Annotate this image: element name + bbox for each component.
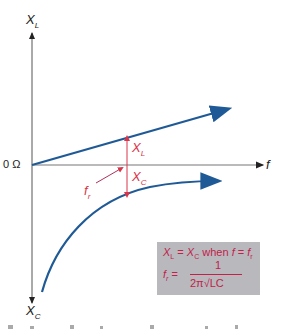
cutoff-text-strip: [8, 325, 238, 329]
origin-label: 0 Ω: [3, 158, 20, 170]
xl-arrow-label: XL: [132, 140, 145, 158]
x-axis-label: f: [266, 157, 270, 172]
formula-box: XL = XC when f = fr fr = 1 2π√LC: [157, 242, 260, 295]
resonant-frequency-lhs: fr =: [163, 268, 178, 282]
xc-arrow-label: XC: [132, 169, 146, 187]
formula-numerator: 1: [215, 259, 221, 271]
y-axis-bottom-label: XC: [26, 303, 40, 321]
fraction-bar: [190, 274, 242, 275]
fr-label: fr: [84, 183, 90, 201]
formula-denominator: 2π√LC: [190, 277, 224, 289]
y-axis-top-label: XL: [26, 12, 39, 30]
resonance-condition: XL = XC when f = fr: [163, 246, 253, 260]
fr-pointer: [96, 168, 122, 183]
xl-line: [32, 109, 228, 165]
